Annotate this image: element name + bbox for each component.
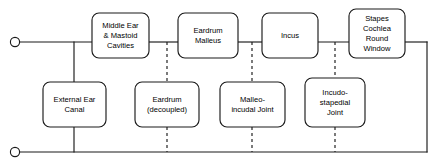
node-label-line-1: Incus [281,31,299,40]
node-label-line-2: Cochlea [363,24,392,33]
node-eardrum-decoupled[interactable]: Eardrum (decoupled) [135,82,199,127]
node-middle-ear-mastoid-cavities[interactable]: Middle Ear & Mastoid Cavities [92,13,149,58]
node-label-line-2: stapedial [320,98,351,107]
node-label-line-1: Eardrum [193,26,222,35]
diagram-canvas: Middle Ear & Mastoid Cavities Eardrum Ma… [0,0,438,166]
node-label-line-2: & Mastoid [104,31,138,40]
node-label-line-1: Incudo- [322,88,348,97]
node-label-line-1: Middle Ear [102,21,139,30]
node-stapes-cochlea-round-window[interactable]: Stapes Cochlea Round Window [349,9,405,58]
input-terminal-bottom-icon[interactable] [10,147,19,156]
node-label-line-2: (decoupled) [147,105,188,114]
node-malleo-incudal-joint[interactable]: Malleo- incudal Joint [220,82,285,127]
node-eardrum-malleus[interactable]: Eardrum Malleus [178,13,238,58]
node-incus[interactable]: Incus [262,13,318,58]
node-label-line-2: Malleus [195,36,221,45]
node-label-line-3: Joint [327,108,344,117]
node-label-line-3: Round [366,34,388,43]
node-label-line-1: Eardrum [152,95,181,104]
node-label-line-1: External Ear [54,95,96,104]
node-incudo-stapedial-joint[interactable]: Incudo- stapedial Joint [305,78,365,127]
series-nodes-layer: Middle Ear & Mastoid Cavities Eardrum Ma… [92,9,405,58]
node-label-line-2: incudal Joint [231,105,274,114]
block-diagram: Middle Ear & Mastoid Cavities Eardrum Ma… [0,0,438,166]
node-label-line-1: Malleo- [240,95,265,104]
node-label-line-1: Stapes [365,14,389,23]
node-label-line-2: Canal [65,105,85,114]
shunt-nodes-layer: External Ear Canal Eardrum (decoupled) M… [43,78,365,127]
node-label-line-4: Window [363,44,391,53]
terminals-layer [10,37,19,156]
node-external-ear-canal[interactable]: External Ear Canal [43,82,106,127]
node-label-line-3: Cavities [107,41,134,50]
input-terminal-top-icon[interactable] [10,37,19,46]
